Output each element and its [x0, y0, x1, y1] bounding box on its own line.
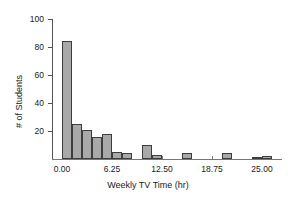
- histogram-bar: [262, 156, 272, 159]
- histogram-bar: [82, 130, 92, 159]
- x-tick-label-6.25: 6.25: [92, 165, 132, 174]
- y-tick-40: [48, 103, 52, 104]
- histogram-bar: [92, 137, 102, 159]
- y-axis-line: [52, 19, 53, 159]
- x-axis-title: Weekly TV Time (hr): [0, 180, 296, 190]
- histogram-bar: [122, 153, 132, 159]
- y-axis-title: # of Students: [14, 75, 24, 128]
- y-tick-60: [48, 75, 52, 76]
- y-tick-label-100: 100: [18, 15, 44, 24]
- y-tick-100: [48, 19, 52, 20]
- x-axis-line: [52, 159, 282, 160]
- x-tick-label-25.00: 25.00: [242, 165, 282, 174]
- histogram-bar: [182, 153, 192, 159]
- histogram-bar: [142, 145, 152, 159]
- x-tick-label-12.50: 12.50: [142, 165, 182, 174]
- x-tick-label-18.75: 18.75: [192, 165, 232, 174]
- histogram-bar: [72, 124, 82, 159]
- y-tick-label-20: 20: [18, 127, 44, 136]
- y-tick-80: [48, 47, 52, 48]
- histogram-bar: [252, 157, 262, 159]
- plot-area: 20406080100 0.006.2512.5018.7525.00 # of…: [0, 0, 296, 200]
- y-tick-label-80: 80: [18, 43, 44, 52]
- histogram-bar: [222, 153, 232, 159]
- x-tick-12.50: [162, 156, 163, 160]
- y-tick-20: [48, 131, 52, 132]
- x-tick-18.75: [212, 156, 213, 160]
- histogram-bar: [112, 152, 122, 159]
- histogram-chart: 20406080100 0.006.2512.5018.7525.00 # of…: [0, 0, 296, 200]
- histogram-bar: [62, 41, 72, 159]
- histogram-bar: [102, 134, 112, 159]
- x-tick-label-0.00: 0.00: [42, 165, 82, 174]
- histogram-bar: [152, 155, 162, 159]
